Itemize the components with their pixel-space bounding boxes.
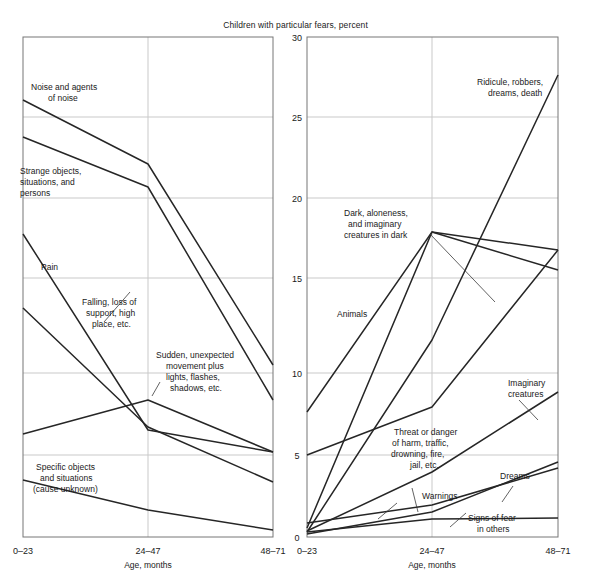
leader-signs: [450, 513, 466, 527]
leader-dreams: [502, 486, 513, 502]
annotation-pain: Pain: [41, 262, 58, 272]
right-xtick-1: 24–47: [419, 546, 444, 556]
annotation-noise-line2: of noise: [48, 93, 78, 103]
ytick-0: 0: [294, 533, 299, 543]
chart-canvas: Noise and agents of noise Strange object…: [0, 0, 591, 583]
annotation-threat-line4: jail, etc.: [409, 460, 439, 470]
annotation-strange-line3: persons: [20, 188, 50, 198]
left-xtick-2: 48–71: [260, 546, 285, 556]
annotation-sudden-line2: movement plus: [166, 361, 224, 371]
leader-dark: [430, 234, 495, 302]
y-axis: 30 25 20 15 10 5 0: [292, 33, 302, 543]
annotation-imaginary-line2: creatures: [508, 389, 543, 399]
ytick-10: 10: [292, 369, 302, 379]
annotation-falling-line1: Falling, loss of: [82, 297, 137, 307]
ytick-25: 25: [292, 113, 302, 123]
left-panel-xaxis: 0–23 24–47 48–71 Age, months: [13, 546, 286, 570]
annotation-specific-line1: Specific objects: [36, 462, 95, 472]
annotation-threat-line2: of harm, traffic,: [392, 438, 449, 448]
annotation-falling-line2: support, high: [86, 308, 135, 318]
ytick-30: 30: [292, 33, 302, 43]
annotation-strange-line1: Strange objects,: [20, 166, 81, 176]
annotation-sudden-line4: shadows, etc.: [170, 383, 222, 393]
annotation-noise-line1: Noise and agents: [31, 82, 97, 92]
annotation-threat-line1: Threat or danger: [394, 427, 457, 437]
ytick-15: 15: [292, 274, 302, 284]
left-panel-annotations: Noise and agents of noise Strange object…: [20, 82, 234, 494]
annotation-specific-line2: and situations: [40, 473, 92, 483]
left-panel: Noise and agents of noise Strange object…: [13, 37, 286, 570]
annotation-sudden-line1: Sudden, unexpected: [156, 350, 234, 360]
right-panel: Ridicule, robbers, dreams, death Dark, a…: [297, 37, 571, 570]
annotation-imaginary-line1: Imaginary: [508, 378, 546, 388]
left-xtick-1: 24–47: [135, 546, 160, 556]
leader-sudden: [152, 382, 160, 396]
annotation-ridicule-line2: dreams, death: [488, 88, 543, 98]
annotation-signs-line2: in others: [477, 524, 510, 534]
right-xaxis-caption: Age, months: [408, 560, 456, 570]
ytick-5: 5: [294, 451, 299, 461]
right-xtick-2: 48–71: [545, 546, 570, 556]
ytick-20: 20: [292, 194, 302, 204]
annotation-dark-line3: creatures in dark: [344, 230, 408, 240]
annotation-warnings: Warnings: [422, 491, 458, 501]
annotation-signs-line1: Signs of fear: [468, 513, 516, 523]
annotation-dark-line2: and imaginary: [348, 219, 402, 229]
right-panel-xaxis: 0–23 24–47 48–71 Age, months: [297, 546, 571, 570]
annotation-strange-line2: situations, and: [20, 177, 75, 187]
annotation-animals: Animals: [337, 309, 367, 319]
leader-imaginary: [519, 400, 538, 420]
right-xtick-0: 0–23: [297, 546, 317, 556]
annotation-sudden-line3: lights, flashes,: [166, 372, 220, 382]
left-xaxis-caption: Age, months: [124, 560, 172, 570]
annotation-ridicule-line1: Ridicule, robbers,: [477, 77, 543, 87]
annotation-falling-line3: place, etc.: [92, 319, 131, 329]
annotation-threat-line3: drowning, fire,: [391, 449, 444, 459]
annotation-specific-line3: (cause unknown): [33, 484, 98, 494]
annotation-dreams: Dreams: [500, 471, 530, 481]
annotation-dark-line1: Dark, aloneness,: [344, 208, 408, 218]
left-xtick-0: 0–23: [13, 546, 33, 556]
chart-root: Children with particular fears, percent: [0, 0, 591, 583]
